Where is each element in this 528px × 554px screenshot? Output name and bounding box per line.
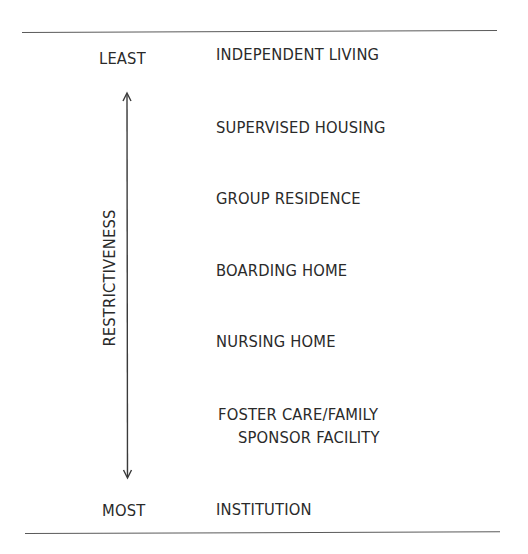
bottom-rule	[25, 531, 500, 534]
most-label: MOST	[102, 503, 145, 519]
level-institution: INSTITUTION	[216, 502, 312, 518]
level-nursing-home: NURSING HOME	[216, 334, 336, 350]
level-boarding-home: BOARDING HOME	[216, 263, 347, 279]
level-foster-care-line1: FOSTER CARE/FAMILY	[218, 407, 378, 423]
level-group-residence: GROUP RESIDENCE	[216, 191, 361, 207]
top-rule	[22, 30, 497, 33]
least-label: LEAST	[99, 51, 146, 67]
level-supervised-housing: SUPERVISED HOUSING	[216, 120, 386, 136]
level-foster-care-line2: SPONSOR FACILITY	[238, 430, 380, 446]
level-independent-living: INDEPENDENT LIVING	[216, 47, 379, 63]
restrictiveness-axis-label: RESTRICTIVENESS	[102, 209, 118, 346]
